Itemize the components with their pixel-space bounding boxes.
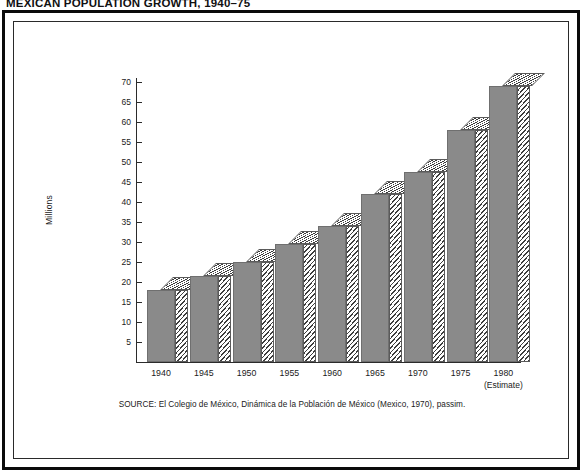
bar-side-face	[175, 290, 188, 362]
bar-chart: Millions 510152025303540455055606570 194…	[0, 0, 584, 474]
bar	[489, 86, 531, 362]
bar	[190, 276, 232, 362]
bar	[318, 226, 360, 362]
y-axis-tick-label: 10	[103, 318, 131, 327]
y-axis-title: Millions	[44, 150, 54, 270]
x-axis-line	[136, 362, 521, 363]
y-axis-tick	[136, 202, 142, 203]
bar	[447, 130, 489, 362]
bar	[361, 194, 403, 362]
bar	[147, 290, 189, 362]
bar-side-face	[475, 130, 488, 362]
y-axis-tick-label: 20	[103, 278, 131, 287]
bar	[404, 172, 446, 362]
x-axis-tick-label: 1980	[473, 368, 533, 378]
bar-front-face	[489, 86, 517, 362]
y-axis-tick	[136, 342, 142, 343]
y-axis-tick-label: 25	[103, 258, 131, 267]
bar-front-face	[361, 194, 389, 362]
y-axis-tick	[136, 122, 142, 123]
y-axis-tick-label: 40	[103, 198, 131, 207]
y-axis-tick	[136, 142, 142, 143]
y-axis-tick	[136, 102, 142, 103]
bar-front-face	[275, 244, 303, 362]
y-axis-tick-label: 5	[103, 338, 131, 347]
y-axis-tick-label: 70	[103, 78, 131, 87]
bar-front-face	[190, 276, 218, 362]
bar-front-face	[147, 290, 175, 362]
bar-front-face	[318, 226, 346, 362]
y-axis-tick	[136, 282, 142, 283]
y-axis-tick-label: 55	[103, 138, 131, 147]
estimate-annotation: (Estimate)	[468, 380, 538, 390]
y-axis-tick	[136, 262, 142, 263]
bar-side-face	[389, 194, 402, 362]
y-axis-tick-label: 65	[103, 98, 131, 107]
y-axis-tick	[136, 182, 142, 183]
bar-front-face	[233, 262, 261, 362]
y-axis-tick	[136, 222, 142, 223]
bar-side-face	[303, 244, 316, 362]
y-axis-tick	[136, 322, 142, 323]
bar-side-face	[432, 172, 445, 362]
y-axis-tick-label: 15	[103, 298, 131, 307]
bar-top-face	[502, 73, 545, 86]
y-axis-tick-label: 50	[103, 158, 131, 167]
bar-side-face	[261, 262, 274, 362]
source-note: SOURCE: El Colegio de México, Dinámica d…	[0, 400, 584, 409]
y-axis-tick	[136, 82, 142, 83]
bar-side-face	[218, 276, 231, 362]
bar-side-face	[517, 86, 530, 362]
y-axis-tick-label: 30	[103, 238, 131, 247]
y-axis-tick-label: 60	[103, 118, 131, 127]
bar	[233, 262, 275, 362]
y-axis-tick-label: 35	[103, 218, 131, 227]
y-axis-tick-label: 45	[103, 178, 131, 187]
y-axis-tick	[136, 302, 142, 303]
y-axis-line	[136, 78, 137, 363]
bar	[275, 244, 317, 362]
y-axis-tick	[136, 162, 142, 163]
y-axis-tick	[136, 242, 142, 243]
bar-front-face	[404, 172, 432, 362]
bar-front-face	[447, 130, 475, 362]
bar-side-face	[346, 226, 359, 362]
